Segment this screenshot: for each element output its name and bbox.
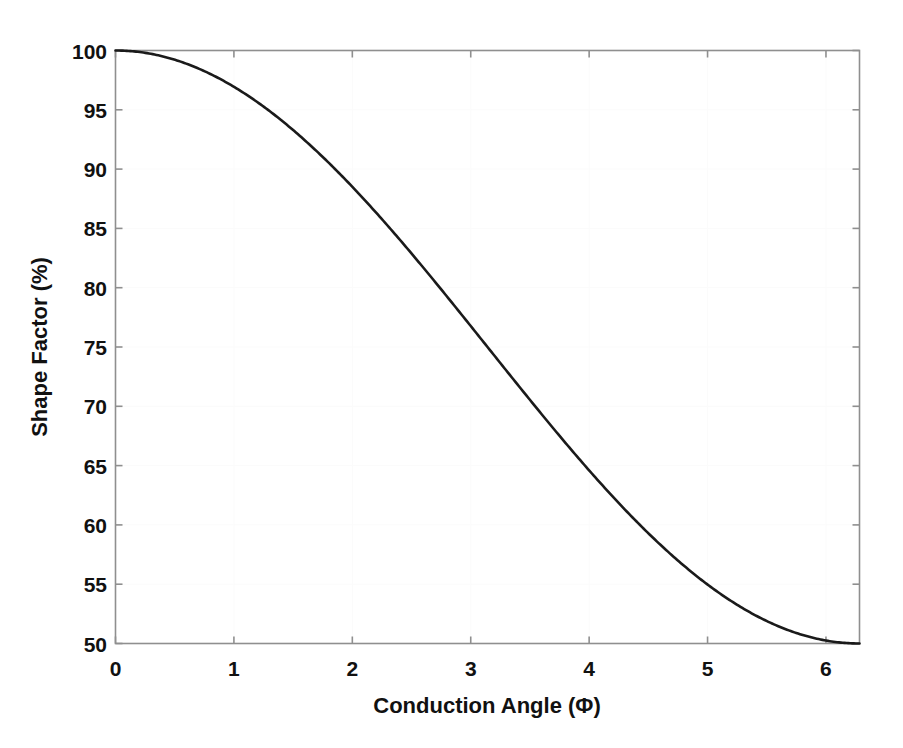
chart-figure: 50556065707580859095100 0123456 Shape Fa…: [0, 0, 903, 748]
x-axis-title: Conduction Angle (Φ): [373, 695, 600, 717]
x-tick-label: 6: [820, 658, 832, 679]
y-axis-title: Shape Factor (%): [29, 257, 51, 437]
y-tick-label: 75: [45, 337, 107, 358]
x-tick-label: 1: [228, 658, 240, 679]
y-tick-label: 90: [45, 159, 107, 180]
x-tick-label: 4: [583, 658, 595, 679]
y-tick-label: 60: [45, 514, 107, 535]
x-tick-label: 2: [346, 658, 358, 679]
y-tick-label: 95: [45, 99, 107, 120]
x-tick-label: 0: [110, 658, 122, 679]
y-tick-label: 50: [45, 633, 107, 654]
y-tick-label: 70: [45, 396, 107, 417]
y-tick-label: 100: [45, 40, 107, 61]
y-tick-label: 85: [45, 218, 107, 239]
y-tick-label: 55: [45, 574, 107, 595]
x-tick-label: 3: [465, 658, 477, 679]
plot-canvas: [0, 0, 903, 748]
y-tick-label: 65: [45, 455, 107, 476]
y-tick-label: 80: [45, 277, 107, 298]
x-tick-label: 5: [702, 658, 714, 679]
